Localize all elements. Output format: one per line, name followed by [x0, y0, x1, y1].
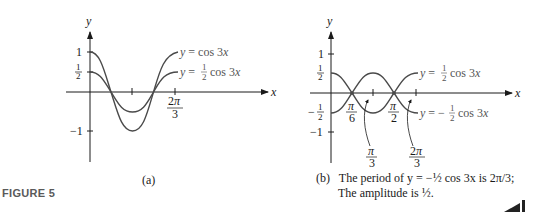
x-axis-label: x — [270, 85, 277, 99]
svg-text:2: 2 — [391, 111, 397, 125]
panel-a: y x 1 1 2 −1 2π 3 y = cos 3x y = 1 — [66, 14, 277, 162]
svg-text:cos 3x: cos 3x — [458, 106, 489, 120]
svg-text:y =: y = — [179, 65, 195, 79]
page-corner-marker — [504, 200, 525, 212]
y-tick-label-neg1: −1 — [70, 124, 83, 138]
caption-b: (b) The period of y = −½ cos 3x is 2π/3;… — [316, 171, 514, 201]
svg-text:2: 2 — [202, 72, 207, 82]
x-axis-label: x — [514, 86, 521, 100]
svg-text:3: 3 — [172, 107, 178, 121]
caption-a: (a) — [142, 173, 155, 188]
svg-text:2: 2 — [450, 113, 455, 123]
svg-text:y =: y = — [419, 66, 435, 80]
svg-text:cos 3x: cos 3x — [450, 66, 481, 80]
y-tick-label-1: 1 — [318, 47, 324, 61]
svg-text:1: 1 — [318, 102, 323, 112]
curve-label-half-cos3x: y = 1 2 cos 3x — [179, 62, 241, 82]
x-tick-label-2pi-3: 2π 3 — [167, 94, 183, 121]
svg-text:2: 2 — [318, 112, 323, 122]
y-tick-label-1: 1 — [76, 45, 82, 59]
svg-text:6: 6 — [349, 111, 355, 125]
caption-b-prefix: (b) — [316, 171, 330, 185]
svg-text:3: 3 — [369, 156, 375, 170]
y-tick-label-half: 1 2 — [75, 62, 82, 81]
curve-label-neg-half-cos3x: y = − 1 2 cos 3x — [419, 103, 489, 123]
svg-text:−: − — [308, 105, 315, 119]
y-tick-label-neg1: −1 — [310, 125, 323, 139]
x-tick-label-pi-6: π 6 — [346, 99, 357, 125]
svg-text:2π: 2π — [168, 94, 181, 108]
svg-text:2: 2 — [76, 71, 81, 81]
svg-text:2: 2 — [318, 72, 323, 82]
svg-text:2: 2 — [442, 73, 447, 83]
y-tick-label-half: 1 2 — [317, 63, 324, 82]
figure-label: FIGURE 5 — [2, 187, 55, 199]
x-tick-label-pi-2: π 2 — [388, 99, 399, 125]
caption-b-line2: The amplitude is ½. — [316, 186, 434, 200]
curve-label-half-cos3x: y = 1 2 cos 3x — [419, 63, 481, 83]
caption-b-line1: The period of y = −½ cos 3x is 2π/3; — [339, 171, 515, 185]
svg-text:3: 3 — [414, 156, 420, 170]
svg-text:1: 1 — [202, 62, 207, 72]
curve-label-cos3x: y = cos 3x — [179, 45, 229, 59]
y-axis-label: y — [85, 14, 92, 28]
y-axis-label: y — [326, 14, 333, 28]
svg-text:1: 1 — [442, 63, 447, 73]
y-tick-label-neg-half: − 1 2 — [308, 102, 324, 122]
panel-b: y x 1 1 2 − 1 2 −1 π 6 — [308, 14, 521, 170]
svg-text:1: 1 — [450, 103, 455, 113]
svg-text:cos 3x: cos 3x — [210, 65, 241, 79]
svg-text:y = −: y = − — [419, 106, 445, 120]
